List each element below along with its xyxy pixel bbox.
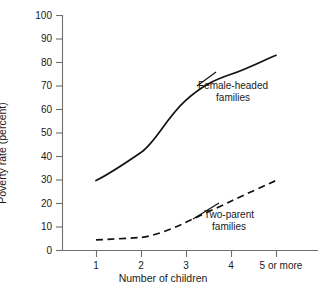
series-annotation-female-headed-line2: families <box>198 92 268 104</box>
y-tick-label-90: 90 <box>12 34 52 44</box>
chart-figure: Poverty rate (percent) 100 90 80 70 60 5… <box>0 0 326 294</box>
x-tick-label-4: 4 <box>228 261 234 271</box>
y-tick-label-40: 40 <box>12 152 52 162</box>
series-line-female-headed <box>96 55 276 180</box>
y-tick-label-10: 10 <box>12 222 52 232</box>
y-tick-label-80: 80 <box>12 58 52 68</box>
series-annotation-female-headed: Female-headed families <box>198 80 268 104</box>
y-tick-label-30: 30 <box>12 175 52 185</box>
series-annotation-two-parent: Two-parent families <box>204 209 254 233</box>
x-axis-label: Number of children <box>0 272 326 284</box>
x-tick-label-3: 3 <box>183 261 189 271</box>
x-axis-ticks <box>97 251 277 258</box>
series-annotation-female-headed-line1: Female-headed <box>198 80 268 92</box>
series-annotation-two-parent-line1: Two-parent <box>204 209 254 221</box>
x-tick-label-5-or-more: 5 or more <box>260 261 303 271</box>
y-tick-label-100: 100 <box>12 11 52 21</box>
y-tick-label-70: 70 <box>12 81 52 91</box>
y-tick-label-60: 60 <box>12 105 52 115</box>
x-tick-label-1: 1 <box>93 261 99 271</box>
y-axis-ticks <box>56 16 63 251</box>
y-tick-label-50: 50 <box>12 128 52 138</box>
series-annotation-two-parent-line2: families <box>204 221 254 233</box>
y-tick-label-0: 0 <box>12 246 52 256</box>
x-tick-label-2: 2 <box>138 261 144 271</box>
y-axis-label: Poverty rate (percent) <box>0 102 8 204</box>
y-tick-label-20: 20 <box>12 199 52 209</box>
